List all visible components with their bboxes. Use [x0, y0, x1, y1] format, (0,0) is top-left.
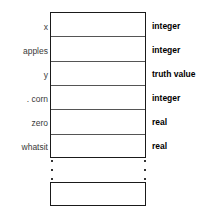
row-type-label: real: [152, 117, 167, 127]
ellipsis-dot: [51, 169, 53, 171]
symbol-table-box: [50, 12, 146, 158]
table-row: [51, 37, 145, 61]
row-name-label: x: [0, 22, 48, 32]
empty-trailing-entry-box: [50, 182, 146, 206]
row-type-label: integer: [152, 93, 180, 103]
row-type-label: integer: [152, 45, 180, 55]
continuation-ellipsis-right: [144, 160, 146, 180]
row-name-label: y: [0, 70, 48, 80]
row-name-label: apples: [0, 46, 48, 56]
row-type-label: real: [152, 141, 167, 151]
table-row: [51, 86, 145, 110]
ellipsis-dot: [144, 169, 146, 171]
ellipsis-dot: [144, 178, 146, 180]
symbol-table-diagram: x apples y . corn zero whatsit integer i…: [0, 0, 210, 212]
table-row: [51, 13, 145, 37]
table-row: [51, 62, 145, 86]
row-name-label: whatsit: [0, 142, 48, 152]
ellipsis-dot: [51, 178, 53, 180]
row-type-label: integer: [152, 21, 180, 31]
row-type-label: truth value: [152, 69, 195, 79]
ellipsis-dot: [51, 160, 53, 162]
table-row: [51, 110, 145, 134]
row-name-label: zero: [0, 118, 48, 128]
table-row: [51, 135, 145, 159]
row-name-label: . corn: [0, 94, 48, 104]
continuation-ellipsis-left: [51, 160, 53, 180]
ellipsis-dot: [144, 160, 146, 162]
